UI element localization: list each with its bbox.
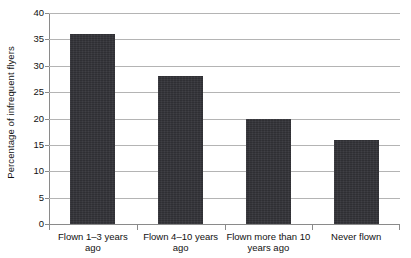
x-axis: Flown 1–3 years agoFlown 4–10 years agoF… xyxy=(49,225,400,258)
y-axis-tick-labels: 0510152025303540 xyxy=(18,0,48,225)
y-axis-tick-label: 25 xyxy=(33,87,44,97)
y-axis-tick-mark xyxy=(45,145,49,146)
bar xyxy=(246,119,291,225)
y-axis-tick-label: 5 xyxy=(39,193,44,203)
x-axis-tick-mark xyxy=(49,225,50,230)
x-axis-category-label: Flown 1–3 years ago xyxy=(49,231,137,253)
bar-chart: Percentage of infrequent flyers 05101520… xyxy=(0,0,411,258)
y-axis-tick-label: 0 xyxy=(39,219,44,229)
x-axis-category-label: Flown more than 10 years ago xyxy=(225,231,313,253)
bar xyxy=(158,76,203,224)
y-axis-tick-mark xyxy=(45,39,49,40)
y-axis-tick-mark xyxy=(45,224,49,225)
x-axis-category-label: Never flown xyxy=(312,231,400,242)
y-axis-tick-mark xyxy=(45,66,49,67)
bar xyxy=(334,140,379,224)
y-axis-tick-mark xyxy=(45,171,49,172)
y-axis-tick-mark xyxy=(45,13,49,14)
y-axis-title-text: Percentage of infrequent flyers xyxy=(5,46,16,178)
x-axis-tick-mark xyxy=(225,225,226,230)
y-axis-tick-label: 35 xyxy=(33,35,44,45)
y-axis-title: Percentage of infrequent flyers xyxy=(0,0,20,225)
y-axis-tick-label: 40 xyxy=(33,8,44,18)
y-axis-tick-mark xyxy=(45,198,49,199)
gridline xyxy=(49,13,400,14)
y-axis-tick-label: 15 xyxy=(33,140,44,150)
x-axis-tick-mark xyxy=(312,225,313,230)
x-axis-tick-mark xyxy=(399,225,400,230)
y-axis-tick-label: 20 xyxy=(33,114,44,124)
plot-area xyxy=(49,13,400,224)
x-axis-category-label: Flown 4–10 years ago xyxy=(137,231,225,253)
y-axis-tick-label: 30 xyxy=(33,61,44,71)
y-axis-tick-mark xyxy=(45,92,49,93)
x-axis-tick-mark xyxy=(137,225,138,230)
bar xyxy=(70,34,115,224)
y-axis-tick-mark xyxy=(45,119,49,120)
y-axis-tick-label: 10 xyxy=(33,167,44,177)
